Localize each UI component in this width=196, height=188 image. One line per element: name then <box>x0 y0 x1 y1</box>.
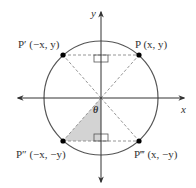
dashed-radius-p <box>101 55 139 98</box>
angle-theta-label: θ <box>93 104 99 115</box>
unit-circle-diagram: x y θ P (x, y) P′ (−x, y) P″ (−x, −y) P‴… <box>0 0 196 188</box>
point-p-double-prime <box>60 138 65 143</box>
point-p-label: P (x, y) <box>135 38 168 51</box>
point-p <box>136 52 141 57</box>
y-axis-label: y <box>90 7 96 19</box>
dashed-radius-p1 <box>63 55 101 98</box>
x-axis-label: x <box>180 103 186 115</box>
dashed-radius-p3 <box>101 98 139 141</box>
point-p-triple-prime <box>136 138 141 143</box>
point-p-prime <box>60 52 65 57</box>
point-p-triple-prime-label: P‴ (x, −y) <box>134 148 178 161</box>
point-p-double-prime-label: P″ (−x, −y) <box>16 148 66 161</box>
point-p-prime-label: P′ (−x, y) <box>18 38 60 51</box>
